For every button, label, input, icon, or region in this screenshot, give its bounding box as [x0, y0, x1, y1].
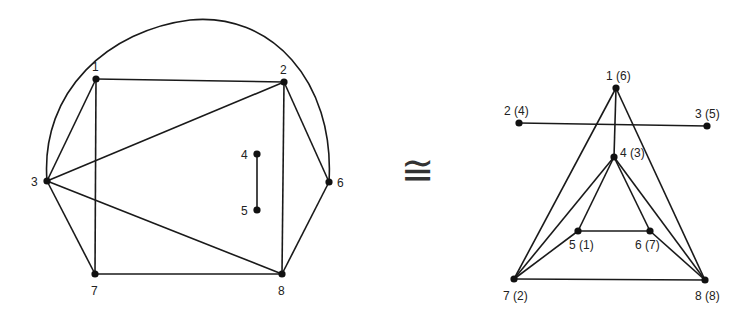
- left-edge-1-7: [95, 79, 96, 274]
- right-edge-4-7: [514, 157, 614, 279]
- left-edge-3-7: [47, 181, 95, 274]
- right-vertex-6: [646, 227, 653, 234]
- left-vertex-label-4: 4: [241, 148, 248, 162]
- left-vertex-label-3: 3: [31, 175, 38, 189]
- left-vertex-7: [91, 270, 98, 277]
- graph-isomorphism-diagram: 12345678 ≅ 1 (6)2 (4)3 (5)4 (3)5 (1)6 (7…: [0, 0, 752, 324]
- left-edge-2-8: [282, 82, 284, 274]
- right-vertex-label-1: 1 (6): [606, 69, 631, 83]
- right-vertex-label-4: 4 (3): [620, 146, 645, 160]
- left-edge-2-3: [47, 82, 284, 181]
- left-graph: 12345678: [31, 19, 344, 298]
- right-edge-1-4: [614, 88, 616, 157]
- right-vertex-5: [574, 227, 581, 234]
- right-edge-7-8: [514, 279, 705, 280]
- right-vertex-8: [701, 276, 708, 283]
- left-vertex-5: [253, 206, 260, 213]
- right-edge-2-3: [519, 123, 707, 126]
- left-edge-3-8: [47, 181, 282, 274]
- right-vertex-1: [612, 84, 619, 91]
- right-edge-4-8: [614, 157, 705, 280]
- left-edge-1-3: [47, 79, 96, 181]
- right-vertex-label-6: 6 (7): [635, 238, 660, 252]
- right-vertex-3: [703, 122, 710, 129]
- right-vertex-2: [515, 119, 522, 126]
- left-vertex-2: [280, 78, 287, 85]
- left-vertex-label-5: 5: [241, 204, 248, 218]
- left-edge-8-6: [282, 182, 329, 274]
- left-arc-3-6: [47, 19, 330, 182]
- right-edge-4-6: [614, 157, 650, 231]
- left-vertex-6: [325, 178, 332, 185]
- left-vertex-8: [278, 270, 285, 277]
- isomorphism-symbol: ≅: [401, 147, 435, 193]
- right-vertex-7: [510, 275, 517, 282]
- left-vertex-4: [253, 150, 260, 157]
- left-vertex-label-7: 7: [91, 284, 98, 298]
- right-vertex-label-7: 7 (2): [503, 289, 528, 303]
- left-edge-2-6: [284, 82, 329, 182]
- right-vertex-label-5: 5 (1): [569, 238, 594, 252]
- right-vertex-4: [610, 153, 617, 160]
- right-vertex-label-3: 3 (5): [695, 107, 720, 121]
- left-vertex-label-2: 2: [280, 63, 287, 77]
- right-vertex-label-8: 8 (8): [695, 289, 720, 303]
- left-vertex-label-6: 6: [337, 176, 344, 190]
- right-edge-1-8: [616, 88, 705, 280]
- left-vertex-label-8: 8: [278, 284, 285, 298]
- right-vertex-label-2: 2 (4): [504, 104, 529, 118]
- left-vertex-1: [92, 75, 99, 82]
- left-edge-1-2: [96, 79, 284, 82]
- right-graph: 1 (6)2 (4)3 (5)4 (3)5 (1)6 (7)7 (2)8 (8): [503, 69, 720, 303]
- left-vertex-3: [43, 177, 50, 184]
- left-vertex-label-1: 1: [92, 60, 99, 74]
